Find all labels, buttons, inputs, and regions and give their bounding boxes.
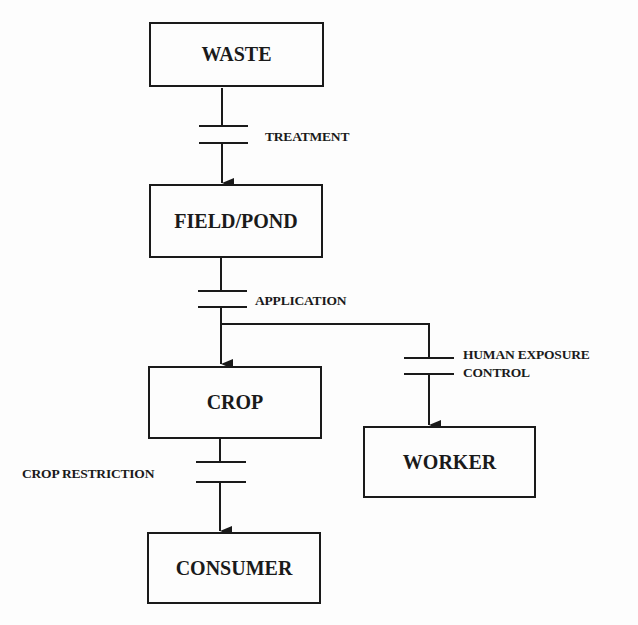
human-exposure-label-line2: CONTROL	[463, 365, 530, 381]
consumer-label: CONSUMER	[176, 557, 293, 580]
human-exposure-label-line1: HUMAN EXPOSURE	[463, 347, 590, 363]
application-barrier-label: APPLICATION	[255, 293, 346, 309]
worker-label: WORKER	[403, 451, 496, 474]
treatment-barrier-label: TREATMENT	[265, 129, 349, 145]
crop-restriction-barrier-label: CROP RESTRICTION	[22, 466, 154, 482]
crop-node: CROP	[148, 366, 322, 439]
waste-node: WASTE	[149, 22, 324, 87]
consumer-node: CONSUMER	[147, 532, 321, 604]
crop-label: CROP	[207, 391, 264, 414]
waste-label: WASTE	[201, 43, 271, 66]
flow-diagram: WASTE FIELD/POND CROP WORKER CONSUMER TR…	[0, 0, 638, 625]
worker-node: WORKER	[363, 426, 536, 498]
field-pond-label: FIELD/POND	[174, 210, 297, 233]
field-pond-node: FIELD/POND	[149, 184, 323, 258]
